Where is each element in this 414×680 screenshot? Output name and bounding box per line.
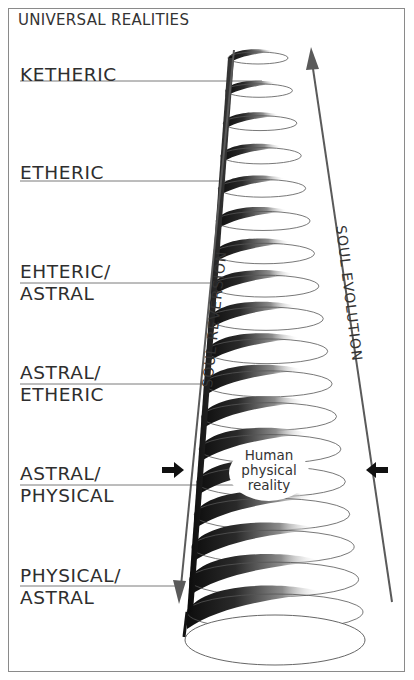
level-label-line-1: PHYSICAL/: [20, 565, 121, 587]
level-label-line-2: ASTRAL: [20, 283, 111, 305]
level-label: ETHERIC: [20, 162, 104, 184]
soul-evolution-label: SOUL EVOLUTION: [333, 224, 366, 362]
level-label-line-1: ETHERIC: [20, 162, 104, 184]
level-label-line-1: ASTRAL/: [20, 463, 114, 485]
level-label: KETHERIC: [20, 64, 117, 86]
level-label-line-2: PHYSICAL: [20, 485, 114, 507]
level-label: EHTERIC/ASTRAL: [20, 261, 111, 305]
level-label: ASTRAL/PHYSICAL: [20, 463, 114, 507]
bubble-line-1: Human: [231, 448, 307, 463]
level-label-line-1: EHTERIC/: [20, 261, 111, 283]
level-label-line-1: ASTRAL/: [20, 362, 104, 384]
level-label-line-2: ASTRAL: [20, 587, 121, 609]
bubble-line-3: reality: [231, 478, 307, 493]
level-label: PHYSICAL/ASTRAL: [20, 565, 121, 609]
human-physical-reality-bubble: Human physical reality: [231, 448, 307, 498]
bubble-line-2: physical: [231, 463, 307, 478]
level-label-line-1: KETHERIC: [20, 64, 117, 86]
level-label-line-2: ETHERIC: [20, 384, 104, 406]
level-label: ASTRAL/ETHERIC: [20, 362, 104, 406]
